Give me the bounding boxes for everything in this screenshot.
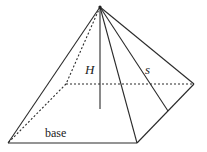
hidden-lateral-edge [66, 7, 100, 84]
height-label: H [84, 62, 95, 77]
pyramid-diagram: H s base [0, 0, 207, 152]
base-right-edge [137, 84, 194, 143]
slant-height-line [100, 7, 168, 111]
lateral-edge-front-right [100, 7, 137, 143]
base-label: base [45, 126, 66, 140]
apex-point [98, 5, 101, 8]
slant-label: s [145, 62, 150, 77]
